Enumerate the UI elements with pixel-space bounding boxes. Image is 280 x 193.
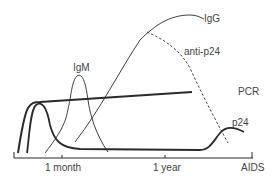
pcr-curve: [18, 92, 192, 153]
tick-label-aids: AIDS: [241, 163, 264, 173]
tick-label-1-month: 1 month: [45, 163, 81, 173]
label-anti-p24: anti-p24: [184, 47, 220, 57]
label-pcr: PCR: [238, 87, 259, 97]
hiv-markers-diagram: IgM IgG anti-p24 PCR p24 1 month 1 year …: [0, 0, 280, 193]
igg-curve: [75, 15, 204, 142]
label-igm: IgM: [73, 63, 90, 73]
x-axis: [14, 152, 253, 158]
label-igg: IgG: [204, 14, 220, 24]
igm-curve-rise: [45, 100, 70, 153]
tick-label-1-year: 1 year: [153, 163, 181, 173]
p24-curve: [27, 104, 244, 153]
label-p24: p24: [232, 118, 249, 128]
